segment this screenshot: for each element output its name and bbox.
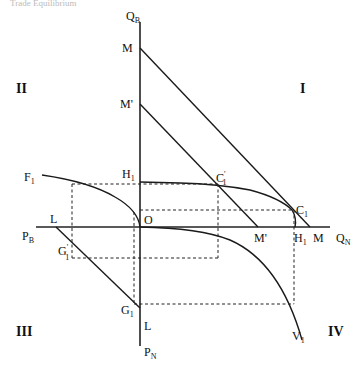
diagram-canvas: Trade Equilibrium I II III IV QB PN QN P… (0, 0, 364, 372)
trade-diagram: Trade Equilibrium I II III IV QB PN QN P… (0, 0, 364, 372)
point-label-F1: F1 (24, 170, 35, 186)
point-label-G1: G1 (121, 303, 134, 319)
axis-label-PB: PB (22, 229, 34, 245)
quadrant-label-III: III (16, 324, 32, 339)
quadrant-label-II: II (16, 81, 27, 96)
point-label-L-axis: L (50, 212, 57, 226)
point-label-M-axis: M (313, 231, 324, 245)
origin-label: O (144, 213, 153, 227)
axis-label-QN: QN (336, 231, 351, 247)
point-label-H1-top: H1 (122, 167, 135, 183)
point-label-V1: V1 (292, 329, 305, 345)
line-L-L (56, 227, 140, 308)
point-label-M-prime-top: M' (120, 97, 133, 111)
axis-label-QB: QB (126, 9, 140, 25)
budget-line-M (140, 48, 310, 227)
point-label-G1-prime: G'1 (58, 243, 69, 262)
quadrant-label-I: I (300, 81, 305, 96)
axis-label-PN: PN (144, 345, 157, 361)
header-text: Trade Equilibrium (10, 0, 76, 8)
point-label-C1: C1 (296, 203, 308, 219)
budget-line-M-prime (140, 104, 258, 227)
quadrant-label-IV: IV (328, 324, 344, 339)
curve-V1 (140, 227, 302, 340)
point-label-M-prime-axis: M' (254, 231, 267, 245)
point-label-H1-axis: H1 (294, 231, 307, 247)
point-label-L-vertical: L (144, 319, 151, 333)
point-label-C1-prime: C'1 (216, 170, 226, 187)
production-curve-quadrant-I (140, 182, 296, 227)
point-label-M-top: M (122, 41, 133, 55)
